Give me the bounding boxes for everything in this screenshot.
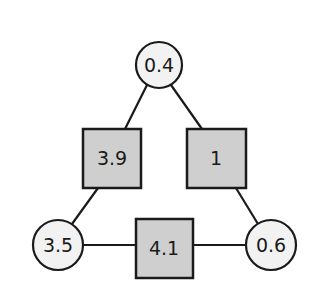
node-label: 3.9 [97,147,127,169]
edge-top-left-mid [125,85,147,129]
node-label: 4.1 [149,237,179,259]
node-left-mid: 3.9 [83,129,141,188]
diagram-svg: 0.4 3.9 1 3.5 4.1 0.6 [0,0,315,294]
node-label: 1 [210,147,222,169]
node-label: 0.6 [256,234,286,256]
edge-right-mid-bottom-right [236,188,258,224]
node-bottom-mid: 4.1 [136,219,193,278]
node-bottom-left: 3.5 [33,220,83,270]
node-right-mid: 1 [187,129,246,188]
edge-top-right-mid [171,85,202,129]
diagram-canvas: 0.4 3.9 1 3.5 4.1 0.6 [0,0,315,294]
edge-left-mid-bottom-left [72,188,98,224]
node-label: 3.5 [43,234,73,256]
node-top: 0.4 [136,42,182,88]
node-bottom-right: 0.6 [246,220,296,270]
node-label: 0.4 [144,54,174,76]
